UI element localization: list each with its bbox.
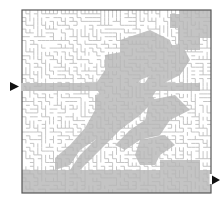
shaded-region (160, 160, 200, 170)
maze-canvas (0, 0, 221, 206)
maze (0, 0, 221, 206)
entrance-gap (21, 83, 24, 91)
